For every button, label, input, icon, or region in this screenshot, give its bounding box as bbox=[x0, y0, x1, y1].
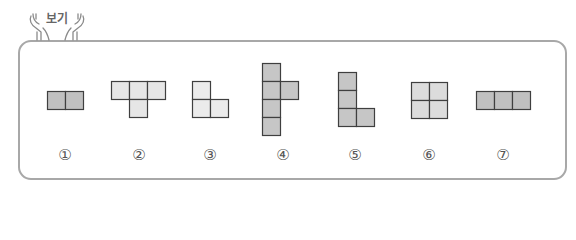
shape-1 bbox=[48, 92, 84, 110]
shape-1-cell bbox=[66, 92, 84, 110]
shape-7-cell bbox=[477, 92, 495, 110]
shape-5-cell bbox=[339, 73, 357, 91]
shape-4-cell bbox=[263, 64, 281, 82]
shape-5-cell bbox=[357, 109, 375, 127]
option-label-4: ④ bbox=[268, 146, 298, 164]
option-label-3: ③ bbox=[195, 146, 225, 164]
shape-4 bbox=[263, 64, 299, 136]
shape-6-cell bbox=[412, 83, 430, 101]
option-label-7: ⑦ bbox=[488, 146, 518, 164]
shape-7-cell bbox=[495, 92, 513, 110]
shape-2-cell bbox=[112, 82, 130, 100]
option-label-1: ① bbox=[50, 146, 80, 164]
option-label-2: ② bbox=[124, 146, 154, 164]
shape-2-cell bbox=[148, 82, 166, 100]
shape-6-cell bbox=[430, 83, 448, 101]
shape-5 bbox=[339, 73, 375, 127]
shape-4-cell bbox=[263, 82, 281, 100]
shape-3-cell bbox=[193, 100, 211, 118]
shape-3-cell bbox=[211, 100, 229, 118]
shape-6 bbox=[412, 83, 448, 119]
shape-5-cell bbox=[339, 109, 357, 127]
shape-6-cell bbox=[412, 101, 430, 119]
shape-3-cell bbox=[193, 82, 211, 100]
shape-2-cell bbox=[130, 82, 148, 100]
shape-6-cell bbox=[430, 101, 448, 119]
shape-7-cell bbox=[513, 92, 531, 110]
shape-4-cell bbox=[263, 118, 281, 136]
shape-2-cell bbox=[130, 100, 148, 118]
shape-1-cell bbox=[48, 92, 66, 110]
shape-2 bbox=[112, 82, 166, 118]
shape-5-cell bbox=[339, 91, 357, 109]
option-label-6: ⑥ bbox=[414, 146, 444, 164]
shape-4-cell bbox=[263, 100, 281, 118]
option-label-5: ⑤ bbox=[340, 146, 370, 164]
shape-4-cell bbox=[281, 82, 299, 100]
shape-3 bbox=[193, 82, 229, 118]
shape-7 bbox=[477, 92, 531, 110]
